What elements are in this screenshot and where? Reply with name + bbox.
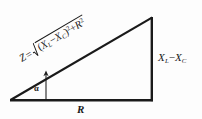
reactance-label: XL−XC <box>158 52 186 65</box>
resistance-label: R <box>77 104 84 115</box>
leg-xl: X <box>158 51 165 63</box>
impedance-triangle-figure: Z=(XL−XC)2+R2 XL−XC R α <box>0 0 202 119</box>
leg-xc-sub: C <box>182 57 187 64</box>
leg-xc: X <box>175 51 182 63</box>
phase-angle-label: α <box>34 84 39 93</box>
